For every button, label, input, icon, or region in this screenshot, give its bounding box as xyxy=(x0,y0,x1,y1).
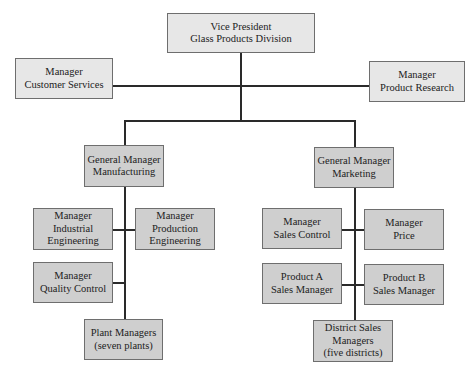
box-line: Industrial xyxy=(53,223,93,236)
connector-staff xyxy=(113,85,369,87)
box-line: (seven plants) xyxy=(94,340,153,353)
box-line: Production xyxy=(152,223,198,236)
box-line: Manager xyxy=(54,270,91,283)
box-line: Sales Manager xyxy=(271,284,333,297)
connector-to-marketing xyxy=(354,120,356,147)
connector-marketing-trunk xyxy=(354,188,356,320)
box-line: Product B xyxy=(383,272,425,285)
box-line: Manager xyxy=(54,210,91,223)
box-line: Managers xyxy=(332,335,373,348)
connector-engineering xyxy=(113,229,135,231)
connector-sales-price xyxy=(342,229,364,231)
box-district-sales: District Sales Managers (five districts) xyxy=(313,320,393,362)
connector-quality xyxy=(113,282,125,284)
connector-vp-down xyxy=(240,53,242,121)
box-line: Manager xyxy=(45,66,82,79)
box-product-research: Manager Product Research xyxy=(369,61,465,102)
box-line: Engineering xyxy=(149,235,200,248)
box-line: Manager xyxy=(398,69,435,82)
box-line: Product Research xyxy=(380,82,454,95)
box-line: Manager xyxy=(385,217,422,230)
box-line: Manufacturing xyxy=(93,166,155,179)
box-gm-manufacturing: General Manager Manufacturing xyxy=(84,145,164,187)
box-production-engineering: Manager Production Engineering xyxy=(135,208,215,250)
box-line: (five districts) xyxy=(323,347,382,360)
box-line: Manager xyxy=(156,210,193,223)
box-line: Engineering xyxy=(47,235,98,248)
connector-to-manufacturing xyxy=(124,120,126,145)
box-product-b-sales: Product B Sales Manager xyxy=(364,264,444,305)
box-line: Sales Manager xyxy=(373,285,435,298)
box-industrial-engineering: Manager Industrial Engineering xyxy=(33,208,113,250)
box-line: Customer Services xyxy=(24,79,103,92)
box-line: Manager xyxy=(283,216,320,229)
box-product-a-sales: Product A Sales Manager xyxy=(262,263,342,304)
connector-product-ab xyxy=(342,284,364,286)
box-line: Plant Managers xyxy=(91,327,157,340)
box-line: Quality Control xyxy=(40,283,106,296)
box-gm-marketing: General Manager Marketing xyxy=(314,147,394,188)
connector-divisions xyxy=(124,120,355,122)
box-line: Product A xyxy=(281,271,323,284)
box-line: General Manager xyxy=(87,154,160,167)
box-line: General Manager xyxy=(317,155,390,168)
box-line: Sales Control xyxy=(274,229,331,242)
box-customer-services: Manager Customer Services xyxy=(15,58,113,99)
connector-manufacturing-trunk xyxy=(124,187,126,319)
box-price: Manager Price xyxy=(364,209,444,250)
box-line: District Sales xyxy=(325,322,381,335)
box-quality-control: Manager Quality Control xyxy=(33,262,113,303)
box-line: Marketing xyxy=(332,168,376,181)
box-plant-managers: Plant Managers (seven plants) xyxy=(84,319,163,360)
box-sales-control: Manager Sales Control xyxy=(262,208,342,249)
box-line: Glass Products Division xyxy=(190,33,292,46)
box-line: Vice President xyxy=(211,21,272,34)
box-vice-president: Vice President Glass Products Division xyxy=(167,13,315,53)
box-line: Price xyxy=(393,230,415,243)
